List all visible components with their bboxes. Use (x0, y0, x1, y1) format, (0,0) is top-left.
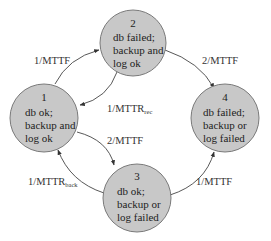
svg-text:backup or: backup or (117, 198, 161, 210)
svg-text:log failed: log failed (203, 132, 245, 144)
label-2-to-1: 1/MTTRrec (107, 103, 152, 115)
svg-text:log failed: log failed (117, 211, 159, 223)
edge-3-to-4 (170, 152, 214, 195)
state-node-3: 3 db ok; backup or log failed (103, 164, 171, 232)
label-1-to-3: 2/MTTF (107, 135, 143, 146)
svg-text:db failed;: db failed; (203, 106, 245, 118)
state-node-1: 1 db ok; backup and log ok (10, 84, 78, 152)
svg-text:log ok: log ok (25, 132, 53, 144)
svg-text:4: 4 (222, 91, 228, 103)
state-diagram: 1/MTTF 1/MTTRrec 2/MTTF 2/MTTF 1/MTTRbac… (0, 0, 271, 241)
svg-text:2: 2 (130, 17, 136, 29)
svg-text:1: 1 (41, 91, 47, 103)
edge-2-to-1 (80, 72, 117, 105)
state-node-4: 4 db failed; backup or log failed (191, 84, 259, 152)
label-3-to-1: 1/MTTRback (28, 176, 78, 188)
svg-text:log ok: log ok (113, 57, 141, 69)
svg-text:3: 3 (134, 170, 140, 182)
label-3-to-4: 1/MTTF (196, 176, 232, 187)
svg-text:db ok;: db ok; (117, 185, 145, 197)
state-node-2: 2 db failed; backup and log ok (100, 10, 166, 76)
svg-text:backup and: backup and (25, 119, 76, 131)
svg-text:db failed;: db failed; (113, 31, 155, 43)
label-2-to-4: 2/MTTF (202, 55, 238, 66)
svg-text:db ok;: db ok; (25, 106, 53, 118)
svg-text:backup and: backup and (113, 44, 164, 56)
label-1-to-2: 1/MTTF (34, 55, 70, 66)
svg-text:backup or: backup or (203, 119, 247, 131)
